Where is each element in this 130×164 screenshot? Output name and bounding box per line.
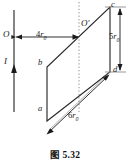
dim-5r0-subscript: 0 (117, 37, 120, 43)
dimension-6r0-arrow (48, 76, 108, 133)
label-vertex-a: a (38, 104, 42, 113)
label-origin-O: O (3, 30, 10, 39)
dim-6r0-subscript: 0 (76, 116, 79, 122)
figure-diagram (0, 0, 130, 164)
label-dimension-6r0: 6r0 (68, 111, 78, 122)
label-origin-O-prime: O' (81, 19, 89, 28)
label-current-I: I (4, 57, 7, 66)
figure-container: O I 4r0 O' a b c d 5r0 6r0 图 5.32 (0, 0, 130, 164)
label-dimension-4r0: 4r0 (36, 30, 46, 41)
label-vertex-c: c (111, 0, 115, 9)
dim-4r0-subscript: 0 (44, 35, 47, 41)
dimension-4r0-left-head-icon (16, 34, 22, 39)
label-dimension-5r0: 5r0 (109, 32, 119, 43)
label-vertex-d: d (113, 65, 117, 74)
current-direction-arrow-icon (11, 64, 17, 73)
label-vertex-b: b (38, 58, 42, 67)
dimension-5r0-bottom-head-icon (118, 64, 123, 71)
figure-caption: 图 5.32 (0, 147, 130, 161)
dimension-5r0-top-head-icon (118, 8, 123, 15)
dimension-6r0-guide-line (50, 72, 110, 129)
